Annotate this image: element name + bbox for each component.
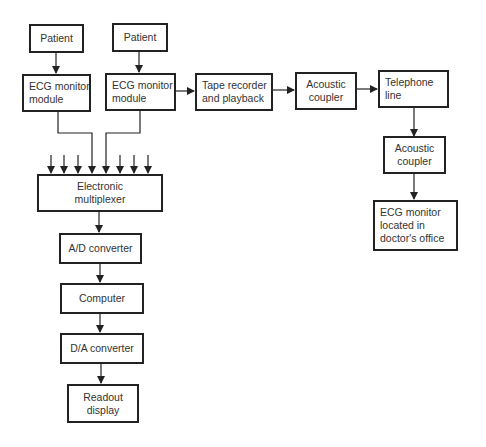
node-label: doctor's office <box>380 232 444 245</box>
node-label: Patient <box>124 31 157 44</box>
node-label: Computer <box>79 292 125 305</box>
node-label: display <box>87 404 120 417</box>
node-label: Acoustic <box>395 142 435 155</box>
node-label: line <box>385 89 401 102</box>
node-label: coupler <box>397 155 431 168</box>
node-label: A/D converter <box>68 242 132 255</box>
node-label: Telephone <box>385 76 433 89</box>
node-label: module <box>112 92 146 105</box>
acoustic-coupler-box-1: Acoustic coupler <box>295 72 357 110</box>
node-label: located in <box>380 219 425 232</box>
patient-box-2: Patient <box>112 23 168 52</box>
ecg-monitor-module-1: ECG monitor module <box>22 74 91 112</box>
node-label: ECG monitor <box>112 79 173 92</box>
tape-recorder-box: Tape recorder and playback <box>195 73 273 111</box>
node-label: Electronic <box>77 180 123 193</box>
node-label: Acoustic <box>306 78 346 91</box>
ecg-telemetry-diagram: Patient Patient ECG monitor module ECG m… <box>0 0 486 447</box>
arrow-ecg2-mux <box>106 110 140 173</box>
acoustic-coupler-box-2: Acoustic coupler <box>383 136 446 174</box>
readout-display-box: Readout display <box>67 384 139 423</box>
node-label: and playback <box>202 92 264 105</box>
da-converter-box: D/A converter <box>60 333 144 364</box>
electronic-multiplexer-box: Electronic multiplexer <box>37 174 163 212</box>
patient-box-1: Patient <box>29 24 84 53</box>
node-label: Patient <box>40 32 73 45</box>
doctor-ecg-monitor-box: ECG monitor located in doctor's office <box>373 200 458 251</box>
node-label: coupler <box>309 91 343 104</box>
node-label: module <box>29 93 63 106</box>
ecg-monitor-module-2: ECG monitor module <box>105 73 176 111</box>
telephone-line-box: Telephone line <box>378 70 449 108</box>
computer-box: Computer <box>60 283 144 314</box>
node-label: multiplexer <box>75 193 126 206</box>
node-label: D/A converter <box>70 342 134 355</box>
node-label: ECG monitor <box>380 206 441 219</box>
ad-converter-box: A/D converter <box>59 233 142 264</box>
arrow-ecg1-mux <box>58 111 92 173</box>
node-label: Readout <box>83 391 123 404</box>
node-label: Tape recorder <box>202 79 267 92</box>
node-label: ECG monitor <box>29 80 90 93</box>
